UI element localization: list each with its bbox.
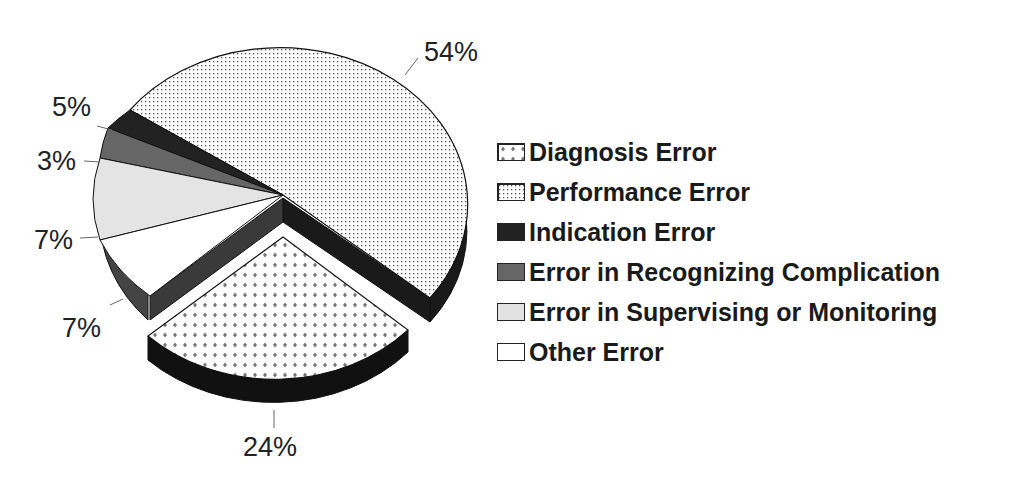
legend-swatch-supervising: [497, 303, 525, 321]
chart-container: 54% 5% 3% 7% 7% 24% Diagnosis Error Perf…: [0, 0, 1026, 484]
legend-item-diagnosis: Diagnosis Error: [497, 132, 940, 172]
legend-label: Performance Error: [529, 178, 750, 207]
legend-label: Error in Recognizing Complication: [529, 258, 940, 287]
legend-item-performance: Performance Error: [497, 172, 940, 212]
legend-label: Diagnosis Error: [529, 138, 717, 167]
legend-item-supervising: Error in Supervising or Monitoring: [497, 292, 940, 332]
label-recognizing: 3%: [37, 146, 76, 177]
legend-item-other: Other Error: [497, 332, 940, 372]
legend-swatch-performance: [497, 183, 525, 201]
legend-swatch-other: [497, 343, 525, 361]
legend-swatch-indication: [497, 223, 525, 241]
legend-label: Other Error: [529, 338, 664, 367]
label-diagnosis: 24%: [243, 432, 297, 463]
legend-swatch-diagnosis: [497, 143, 525, 161]
label-other: 7%: [62, 313, 101, 344]
legend-swatch-recognizing: [497, 263, 525, 281]
label-supervising: 7%: [34, 225, 73, 256]
legend-label: Error in Supervising or Monitoring: [529, 298, 937, 327]
label-indication: 5%: [52, 92, 91, 123]
legend: Diagnosis Error Performance Error Indica…: [497, 132, 940, 372]
legend-item-indication: Indication Error: [497, 212, 940, 252]
label-performance: 54%: [424, 37, 478, 68]
legend-item-recognizing: Error in Recognizing Complication: [497, 252, 940, 292]
legend-label: Indication Error: [529, 218, 715, 247]
